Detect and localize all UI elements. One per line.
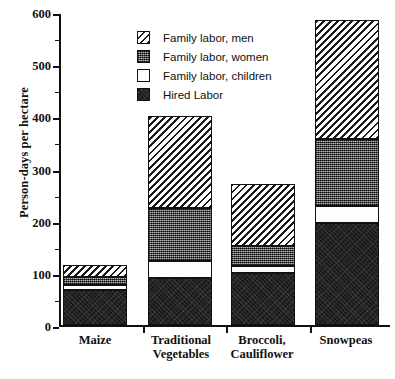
y-tick-label-400: 400 xyxy=(32,111,51,126)
bar-segment-family-labor-men xyxy=(63,265,127,278)
bar-segment-family-labor-men xyxy=(148,116,212,207)
y-minor-tick-250 xyxy=(55,197,59,198)
plot-area: 600 500 400 300 200 100 0 xyxy=(59,14,390,327)
x-category-line: Snowpeas xyxy=(311,333,381,347)
bar-segment-hired-labor xyxy=(315,223,379,325)
bar-segment-family-labor-women xyxy=(231,246,295,266)
bar-segment-family-labor-men xyxy=(231,184,295,246)
y-minor-tick-350 xyxy=(55,144,59,145)
x-category-line: Cauliflower xyxy=(219,347,305,361)
legend-label: Hired Labor xyxy=(163,89,223,101)
diagonal-hatch-swatch-icon xyxy=(137,31,150,44)
x-category-label-traditional-vegetables: Traditional Vegetables xyxy=(140,333,222,361)
bar-traditional-vegetables xyxy=(148,116,212,325)
y-minor-tick-450 xyxy=(55,92,59,93)
x-category-line: Broccoli, xyxy=(219,333,305,347)
bar-broccoli-cauliflower xyxy=(231,184,295,325)
chart-root: Person-days per hectare 600 500 400 300 … xyxy=(0,0,395,379)
y-tick-0 xyxy=(53,327,59,329)
y-minor-tick-150 xyxy=(55,249,59,250)
y-axis-title: Person-days per hectare xyxy=(17,43,32,263)
y-tick-200 xyxy=(53,223,59,225)
legend-item-family-labor-women: Family labor, women xyxy=(137,47,272,66)
bar-segment-family-labor-women xyxy=(148,208,212,261)
bar-segment-family-labor-women xyxy=(315,139,379,206)
y-tick-label-0: 0 xyxy=(45,320,51,335)
legend-label: Family labor, men xyxy=(163,32,254,44)
x-category-line: Maize xyxy=(63,333,127,347)
y-tick-label-500: 500 xyxy=(32,59,51,74)
legend-item-family-labor-men: Family labor, men xyxy=(137,28,272,47)
bar-segment-family-labor-children xyxy=(63,285,127,290)
solid-dark-swatch-icon xyxy=(137,88,150,101)
x-category-label-broccoli-cauliflower: Broccoli, Cauliflower xyxy=(219,333,305,361)
y-tick-600 xyxy=(53,14,59,16)
legend-item-family-labor-children: Family labor, children xyxy=(137,66,272,85)
x-category-line: Vegetables xyxy=(140,347,222,361)
bar-segment-hired-labor xyxy=(63,290,127,326)
legend-item-hired-labor: Hired Labor xyxy=(137,85,272,104)
bar-segment-family-labor-children xyxy=(315,206,379,223)
y-tick-label-300: 300 xyxy=(32,163,51,178)
bar-segment-family-labor-men xyxy=(315,20,379,140)
x-category-label-maize: Maize xyxy=(63,333,127,347)
y-tick-300 xyxy=(53,171,59,173)
white-swatch-icon xyxy=(137,69,150,82)
y-tick-label-200: 200 xyxy=(32,215,51,230)
y-tick-100 xyxy=(53,275,59,277)
x-axis-line xyxy=(59,325,390,327)
x-category-label-snowpeas: Snowpeas xyxy=(311,333,381,347)
y-tick-label-100: 100 xyxy=(32,267,51,282)
y-tick-500 xyxy=(53,66,59,68)
chart-legend: Family labor, men Family labor, women Fa… xyxy=(137,28,272,104)
bar-segment-family-labor-women xyxy=(63,277,127,285)
y-axis-line xyxy=(59,14,61,327)
legend-label: Family labor, children xyxy=(163,70,272,82)
bar-segment-family-labor-children xyxy=(148,261,212,278)
legend-label: Family labor, women xyxy=(163,51,268,63)
bar-segment-hired-labor xyxy=(231,273,295,325)
y-minor-tick-550 xyxy=(55,40,59,41)
bar-segment-family-labor-children xyxy=(231,266,295,273)
bar-segment-hired-labor xyxy=(148,278,212,325)
bar-snowpeas xyxy=(315,20,379,325)
y-tick-label-600: 600 xyxy=(32,7,51,22)
y-tick-400 xyxy=(53,118,59,120)
checker-swatch-icon xyxy=(137,50,150,63)
y-minor-tick-50 xyxy=(55,301,59,302)
x-category-line: Traditional xyxy=(140,333,222,347)
bar-maize xyxy=(63,265,127,326)
